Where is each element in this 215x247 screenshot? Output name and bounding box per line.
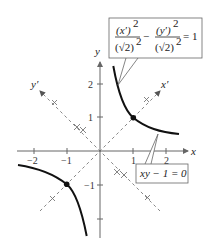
eq-xy-minus-1: xy − 1 = 0 xyxy=(139,167,187,179)
eq-numerator-x: (x′) xyxy=(116,24,131,37)
vertex-lower xyxy=(64,182,70,188)
eq-den-exp-1: 2 xyxy=(136,35,142,47)
x-tick-neg2: −2 xyxy=(27,155,38,166)
eq-exp-2: 2 xyxy=(173,17,179,29)
x-tick-1: 1 xyxy=(131,155,136,166)
eq-numerator-y: (y′) xyxy=(156,24,171,37)
x-axis-label: x xyxy=(190,145,196,157)
eq-denominator-2: (√2) xyxy=(155,41,174,54)
y-tick-2: 2 xyxy=(88,79,93,90)
original-equation-callout: xy − 1 = 0 xyxy=(136,134,188,183)
y-tick-1: 1 xyxy=(88,112,93,123)
y-axis xyxy=(97,62,103,238)
x-tick-neg1: −1 xyxy=(61,155,72,166)
y-axis-label: y xyxy=(94,45,100,57)
rotated-equation-callout: (x′) 2 (√2) 2 − (y′) 2 (√2) 2 = 1 xyxy=(109,17,202,85)
y-tick-neg1: −1 xyxy=(84,180,95,191)
eq-equals-one: = 1 xyxy=(183,30,197,42)
y-prime-label: y′ xyxy=(30,78,39,90)
eq-exp-1: 2 xyxy=(133,17,139,29)
eq-den-exp-2: 2 xyxy=(176,35,182,47)
hyperbola-lower-curve xyxy=(18,165,87,236)
x-axis xyxy=(17,148,188,154)
hyperbola-diagram: x y x′ y′ −2 −1 1 2 2 1 −1 (x′) 2 (√2) 2… xyxy=(0,0,215,247)
eq-minus: − xyxy=(143,30,149,42)
eq-denominator-1: (√2) xyxy=(115,41,134,54)
x-prime-label: x′ xyxy=(160,78,169,90)
vertex-upper xyxy=(131,115,137,121)
